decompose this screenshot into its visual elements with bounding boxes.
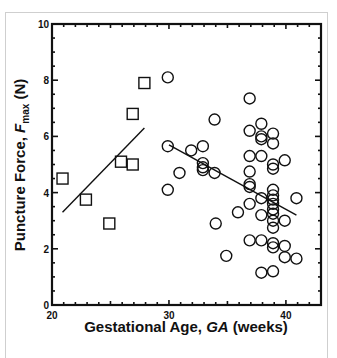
data-point-circle: [174, 167, 185, 178]
data-point-circle: [162, 184, 173, 195]
y-axis-title: Puncture Force, Fmax (N): [11, 79, 31, 252]
data-point-circle: [279, 155, 290, 166]
data-point-circle: [244, 125, 255, 136]
data-point-circle: [256, 134, 267, 145]
plot-area: [57, 72, 302, 278]
data-point-circle: [256, 210, 267, 221]
data-point-circle: [256, 131, 267, 142]
data-point-circle: [209, 114, 220, 125]
data-point-circle: [256, 151, 267, 162]
y-tick-label: 10: [38, 19, 50, 30]
data-point-square: [80, 194, 91, 205]
data-point-circle: [279, 215, 290, 226]
data-point-circle: [256, 267, 267, 278]
y-title-unit: (N): [11, 79, 28, 104]
scatter-chart: 2030400246810 Gestational Age, GA (weeks…: [0, 0, 337, 358]
data-point-circle: [268, 266, 279, 277]
data-point-circle: [279, 240, 290, 251]
y-tick-label: 6: [43, 131, 49, 142]
y-title-text: Puncture Force,: [11, 133, 28, 251]
data-point-circle: [279, 252, 290, 263]
y-tick-label: 2: [43, 244, 49, 255]
x-axis-title: Gestational Age, GA (weeks): [84, 318, 288, 335]
data-point-square: [139, 78, 150, 89]
series-circles: [162, 72, 302, 278]
data-point-circle: [268, 222, 279, 233]
x-title-italic: GA: [206, 318, 229, 335]
data-point-circle: [209, 167, 220, 178]
data-point-circle: [244, 93, 255, 104]
y-tick-label: 4: [43, 188, 49, 199]
data-point-square: [127, 108, 138, 119]
data-point-circle: [210, 218, 221, 229]
data-point-square: [57, 173, 68, 184]
x-title-text: Gestational Age,: [84, 318, 206, 335]
data-point-circle: [162, 72, 173, 83]
x-title-unit: (weeks): [229, 318, 288, 335]
data-point-circle: [291, 253, 302, 264]
y-tick-label: 0: [43, 300, 49, 311]
x-tick-label: 20: [46, 310, 58, 321]
data-point-circle: [256, 118, 267, 129]
series-squares: [57, 78, 150, 230]
data-point-circle: [244, 179, 255, 190]
y-title-subscript: max: [20, 103, 31, 123]
data-point-square: [104, 218, 115, 229]
data-point-circle: [221, 250, 232, 261]
data-point-circle: [244, 235, 255, 246]
data-point-circle: [244, 151, 255, 162]
data-point-square: [116, 156, 127, 167]
data-point-circle: [244, 198, 255, 209]
data-point-circle: [186, 145, 197, 156]
data-point-circle: [256, 235, 267, 246]
data-point-square: [127, 159, 138, 170]
data-point-circle: [244, 166, 255, 177]
data-point-circle: [197, 165, 208, 176]
data-point-circle: [232, 207, 243, 218]
data-point-circle: [197, 141, 208, 152]
data-point-circle: [291, 193, 302, 204]
y-tick-label: 8: [43, 75, 49, 86]
